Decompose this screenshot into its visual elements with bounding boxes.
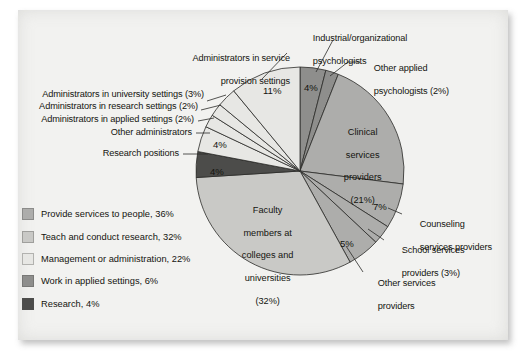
percent-other-admin: 4% — [213, 139, 227, 150]
legend-item-0[interactable]: Provide services to people, 36% — [22, 203, 237, 225]
callout-admin-research: Administrators in research settings (2%) — [20, 101, 198, 112]
legend-label-2: Management or administration, 22% — [41, 254, 190, 264]
legend-swatch-icon-1 — [22, 231, 34, 243]
percent-other-services: 5% — [340, 238, 354, 249]
callout-admin-service-line1: Administrators in service — [192, 53, 290, 63]
legend-swatch-icon-3 — [22, 275, 34, 287]
clinical-line3: providers — [344, 172, 382, 182]
faculty-line4: universities — [245, 273, 291, 283]
legend-swatch-icon-2 — [22, 253, 34, 265]
callout-other-applied-line2: psychologists (2%) — [374, 86, 449, 96]
legend-item-4[interactable]: Research, 4% — [22, 293, 237, 315]
clinical-line2: services — [346, 150, 380, 160]
callout-research-pos: Research positions — [20, 148, 179, 159]
callout-other-applied: Other applied psychologists (2%) — [359, 52, 449, 108]
callout-other-services-line1: Other services — [378, 278, 436, 288]
faculty-line2: members at — [243, 228, 292, 238]
callout-counseling-line1: Counseling — [420, 219, 465, 229]
callout-school-line1: School services — [402, 245, 465, 255]
callout-io-psych-line1: Industrial/organizational — [313, 33, 408, 43]
legend-label-3: Work in applied settings, 6% — [41, 276, 158, 286]
callout-other-applied-line1: Other applied — [374, 63, 428, 73]
percent-counseling: 7% — [373, 201, 387, 212]
faculty-line5: (32%) — [255, 296, 280, 306]
legend-swatch-icon-0 — [22, 208, 34, 220]
faculty-line3: colleges and — [242, 250, 294, 260]
legend-swatch-icon-4 — [22, 298, 34, 310]
faculty-line1: Faculty — [253, 205, 283, 215]
clinical-line1: Clinical — [348, 127, 378, 137]
percent-research-pos: 4% — [210, 166, 224, 177]
legend-item-1[interactable]: Teach and conduct research, 32% — [22, 225, 237, 247]
legend-label-1: Teach and conduct research, 32% — [41, 232, 182, 242]
clinical-line4: (21%) — [350, 195, 375, 205]
percent-io-psych: 4% — [304, 82, 318, 93]
legend-item-3[interactable]: Work in applied settings, 6% — [22, 270, 237, 292]
legend: Provide services to people, 36%Teach and… — [22, 203, 237, 315]
pie-chart: Clinical services providers (21%) Facult… — [0, 0, 523, 353]
figure-root: Clinical services providers (21%) Facult… — [0, 0, 523, 353]
legend-label-4: Research, 4% — [41, 299, 99, 309]
callout-other-services-line2: providers — [378, 301, 415, 311]
callout-admin-univ: Administrators in university settings (3… — [20, 89, 204, 100]
callout-other-services: Other services providers — [363, 267, 436, 323]
legend-label-0: Provide services to people, 36% — [41, 209, 174, 219]
legend-item-2[interactable]: Management or administration, 22% — [22, 248, 237, 270]
callout-admin-applied: Administrators in applied settings (2%) — [20, 114, 194, 125]
callout-admin-service-line2: provision settings — [221, 76, 290, 86]
callout-other-admin: Other administrators — [20, 127, 192, 138]
